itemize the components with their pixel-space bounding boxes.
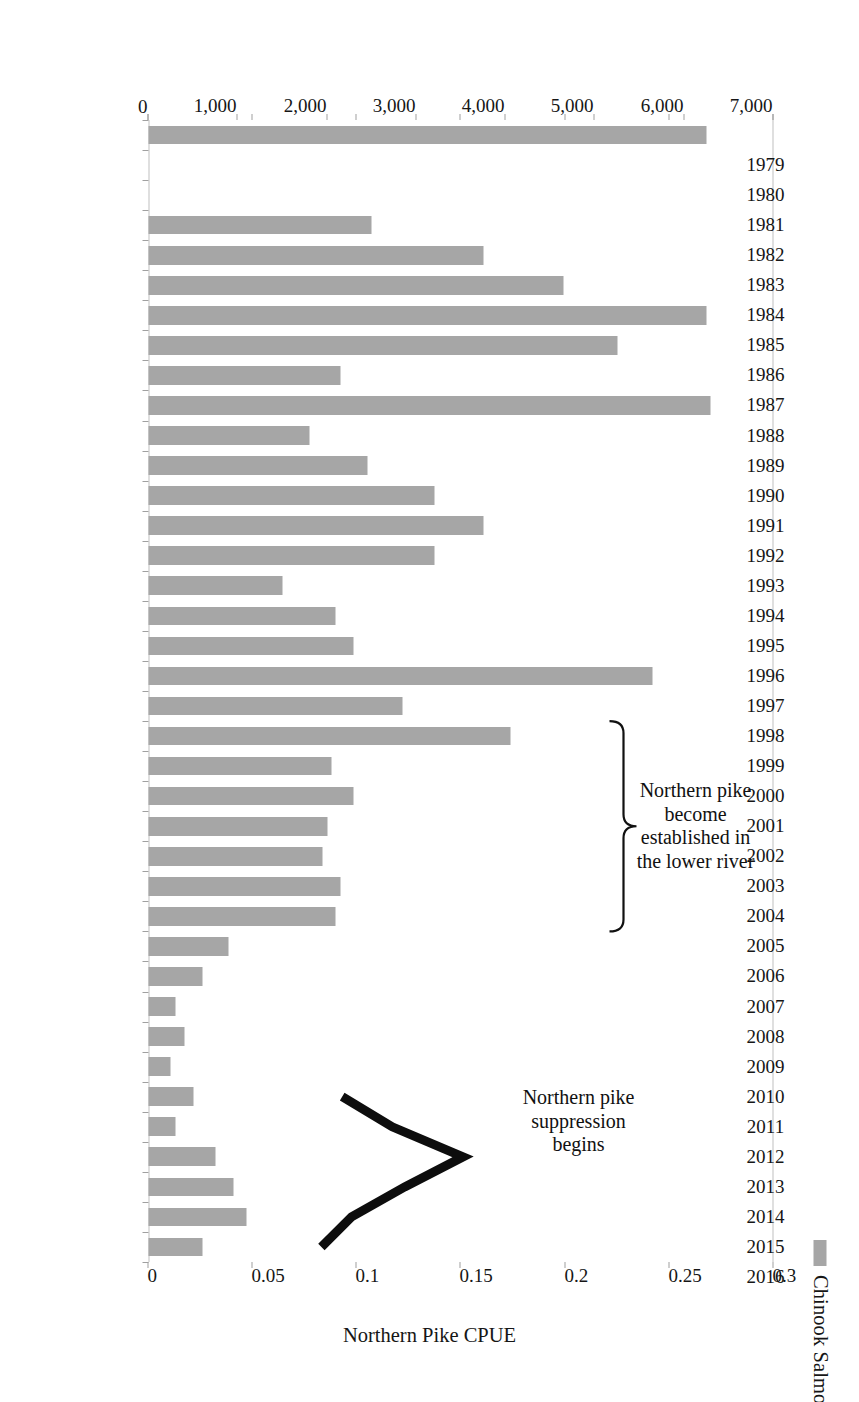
primary-tick-label-5,000: 5,000 <box>551 95 594 117</box>
secondary-value-tick <box>355 1262 356 1268</box>
secondary-tick-label-0.2: 0.2 <box>564 1265 588 1287</box>
secondary-tick-label-0: 0 <box>147 1265 157 1287</box>
category-tick <box>142 901 148 902</box>
category-tick <box>142 992 148 993</box>
right-axis-title: Northern Pike CPUE <box>342 1324 515 1347</box>
category-tick <box>142 1022 148 1023</box>
primary-tick-label-2,000: 2,000 <box>283 95 326 117</box>
category-tick <box>142 1232 148 1233</box>
primary-tick-label-7,000: 7,000 <box>729 95 772 117</box>
primary-tick-label-6,000: 6,000 <box>640 95 683 117</box>
category-tick <box>142 1082 148 1083</box>
category-tick <box>142 541 148 542</box>
rotated-figure-wrapper: Chinook Salmon Escapement Northern Pike … <box>0 0 859 1402</box>
category-tick <box>142 811 148 812</box>
category-tick <box>142 390 148 391</box>
category-tick <box>142 1112 148 1113</box>
category-tick <box>142 1172 148 1173</box>
category-tick <box>142 270 148 271</box>
category-tick <box>142 781 148 782</box>
secondary-tick-label-0.1: 0.1 <box>355 1265 379 1287</box>
secondary-value-tick <box>147 1262 148 1268</box>
annotation-suppression: Northern pike suppression begins <box>522 1085 634 1156</box>
category-tick <box>142 841 148 842</box>
category-tick <box>142 451 148 452</box>
secondary-value-tick <box>460 1262 461 1268</box>
category-tick <box>142 240 148 241</box>
plot-area: 01,0002,0003,0004,0005,0006,0007,000 00.… <box>148 120 773 1262</box>
chart-root: Chinook Salmon Escapement Northern Pike … <box>0 0 859 1402</box>
annotation-established: Northern pike become established in the … <box>636 779 754 873</box>
category-tick <box>142 691 148 692</box>
secondary-value-tick <box>668 1262 669 1268</box>
category-tick <box>142 1202 148 1203</box>
chart-legend: Chinook Salmon Escapement Northern Pike … <box>808 1240 831 1402</box>
category-tick <box>142 360 148 361</box>
secondary-tick-label-0.25: 0.25 <box>668 1265 701 1287</box>
category-tick <box>142 150 148 151</box>
primary-tick-label-1,000: 1,000 <box>194 95 237 117</box>
legend-label-escapement: Chinook Salmon Escapement <box>808 1275 831 1402</box>
secondary-value-tick <box>564 1262 565 1268</box>
category-tick <box>142 120 148 121</box>
category-tick <box>142 631 148 632</box>
secondary-tick-label-0.05: 0.05 <box>251 1265 284 1287</box>
secondary-value-tick <box>251 1262 252 1268</box>
category-tick <box>142 751 148 752</box>
legend-item-escapement: Chinook Salmon Escapement <box>808 1240 831 1402</box>
category-tick <box>142 871 148 872</box>
category-tick <box>142 421 148 422</box>
category-tick <box>142 210 148 211</box>
category-tick <box>142 571 148 572</box>
category-tick <box>142 300 148 301</box>
category-label-2016: 2016 <box>746 1266 784 1288</box>
primary-tick-label-3,000: 3,000 <box>372 95 415 117</box>
category-tick <box>142 601 148 602</box>
legend-bar-swatch-icon <box>813 1240 826 1266</box>
category-tick <box>142 180 148 181</box>
category-tick <box>142 1142 148 1143</box>
category-tick <box>142 661 148 662</box>
category-tick <box>142 1052 148 1053</box>
category-tick <box>142 961 148 962</box>
category-tick <box>142 721 148 722</box>
category-tick <box>142 511 148 512</box>
category-tick <box>142 330 148 331</box>
secondary-tick-label-0.15: 0.15 <box>460 1265 493 1287</box>
category-tick <box>142 931 148 932</box>
primary-tick-label-4,000: 4,000 <box>461 95 504 117</box>
category-tick <box>142 481 148 482</box>
annotation-bracket-established <box>148 120 773 1262</box>
bracket-path <box>609 721 636 931</box>
primary-tick-label-0: 0 <box>138 95 148 117</box>
